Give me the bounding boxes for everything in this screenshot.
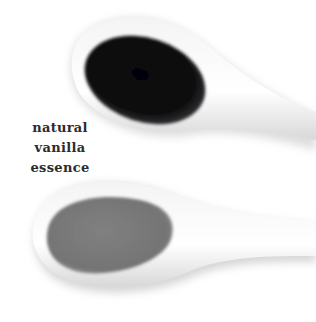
label-line-2: vanilla — [18, 138, 102, 158]
bottom-spoon — [33, 182, 316, 293]
product-photo: natural vanilla essence — [0, 0, 316, 322]
label-line-3: essence — [18, 158, 102, 178]
label-line-1: natural — [18, 118, 102, 138]
product-label: natural vanilla essence — [18, 118, 102, 178]
top-spoon — [71, 17, 316, 150]
